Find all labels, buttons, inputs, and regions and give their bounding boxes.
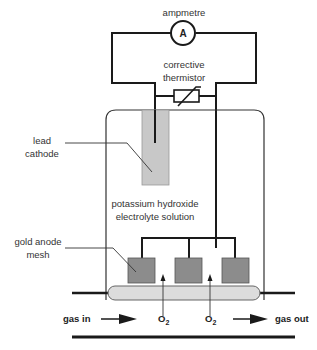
o2-label-right: O2 <box>205 313 216 326</box>
electrolyte-label-line1: potassium hydroxide <box>111 198 198 209</box>
thermistor-icon <box>174 87 201 106</box>
thermistor-label-line2: thermistor <box>163 72 205 83</box>
anode-label-line1: gold anode <box>14 236 61 247</box>
gold-anode-mesh-2 <box>175 258 202 283</box>
gold-anode-mesh-3 <box>222 258 249 283</box>
fuel-cell-diagram: A ampmetre corrective thermistor lead ca… <box>0 0 317 350</box>
ammeter-icon: A <box>171 21 195 45</box>
membrane <box>108 286 260 300</box>
cathode-label-line2: cathode <box>25 148 59 159</box>
thermistor-label-line1: corrective <box>163 59 204 70</box>
gas-in-arrow <box>101 314 137 324</box>
gas-out-label: gas out <box>275 313 310 324</box>
anode-leader-line <box>65 248 136 272</box>
gas-in-label: gas in <box>63 313 91 324</box>
o2-label-left: O2 <box>158 313 169 326</box>
cathode-label-line1: lead <box>33 135 51 146</box>
ammeter-symbol: A <box>179 28 186 39</box>
cathode-leader-line <box>65 143 152 172</box>
anode-label-line2: mesh <box>26 249 49 260</box>
gas-out-arrow <box>233 314 268 324</box>
ammeter-label: ampmetre <box>163 7 206 18</box>
electrolyte-label-line2: electrolyte solution <box>116 211 195 222</box>
gold-anode-mesh-1 <box>128 258 155 283</box>
